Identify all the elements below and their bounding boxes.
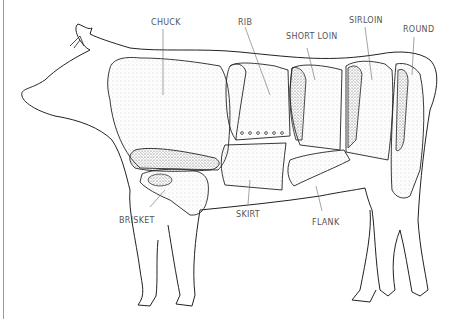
label-flank: FLANK — [312, 219, 339, 227]
label-chuck: CHUCK — [151, 19, 181, 27]
label-skirt: SKIRT — [236, 211, 260, 219]
flank-cut — [288, 150, 350, 186]
skirt-cut — [221, 143, 286, 190]
label-brisket: BRISKET — [119, 217, 155, 225]
rib-cut — [226, 63, 290, 140]
label-round: ROUND — [403, 26, 434, 34]
cow-cuts-illustration — [0, 0, 452, 319]
ear-detail — [70, 36, 84, 48]
label-sirloin: SIRLOIN — [349, 17, 383, 25]
label-rib: RIB — [238, 19, 252, 27]
label-short-loin: SHORT LOIN — [286, 33, 338, 41]
brisket-marbling — [148, 174, 172, 186]
